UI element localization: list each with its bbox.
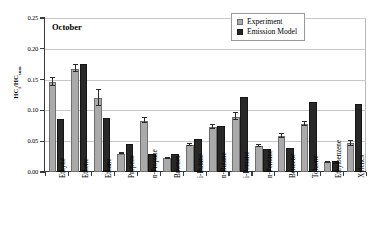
bar-group [206, 18, 229, 172]
bar-group [45, 18, 68, 172]
x-tick-label: n-Butane [220, 152, 228, 178]
chart-figure: 0.000.050.100.150.200.25 HCi/HCsum Octob… [0, 0, 374, 240]
error-bar [98, 90, 99, 106]
bar-experiment [140, 121, 148, 172]
bar-experiment [255, 146, 263, 172]
bar-experiment [186, 145, 194, 172]
bars-layer [45, 18, 366, 172]
error-bar-cap [302, 121, 307, 122]
x-tick-mark [366, 172, 367, 176]
error-bar-cap [96, 105, 101, 106]
error-bar-cap [187, 145, 192, 146]
bar-experiment [71, 69, 79, 172]
x-tick-mark [68, 172, 69, 176]
error-bar-cap [302, 125, 307, 126]
y-tick-label: 0.25 [12, 14, 38, 21]
error-bar-cap [210, 124, 215, 125]
error-bar-cap [256, 146, 261, 147]
x-tick-mark [114, 172, 115, 176]
x-tick-label: Ethane [105, 159, 113, 178]
bar-group [251, 18, 274, 172]
x-tick-mark [137, 172, 138, 176]
bar-group [183, 18, 206, 172]
x-tick-label: Propene [128, 155, 136, 178]
bar-experiment [94, 98, 102, 172]
x-tick-mark [160, 172, 161, 176]
x-tick-mark [206, 172, 207, 176]
x-tick-mark [45, 172, 46, 176]
error-bar-cap [50, 85, 55, 86]
x-tick-label: n-Propane [151, 149, 159, 178]
x-tick-label: Ethylbenzene [335, 140, 343, 178]
x-tick-mark [274, 172, 275, 176]
y-axis-title-sub-sum: sum [17, 67, 22, 76]
bar-group [297, 18, 320, 172]
error-bar-cap [142, 122, 147, 123]
bar-group [343, 18, 366, 172]
error-bar-cap [187, 143, 192, 144]
error-bar-cap [279, 137, 284, 138]
x-tick-label: Toluene [312, 156, 320, 178]
y-tick-label: 0.05 [12, 137, 38, 144]
bar-experiment [301, 124, 309, 172]
x-tick-mark [343, 172, 344, 176]
x-tick-mark [320, 172, 321, 176]
x-tick-label: i-Pentane [243, 152, 251, 178]
error-bar-cap [233, 112, 238, 113]
error-bar-cap [256, 144, 261, 145]
bar-group [91, 18, 114, 172]
error-bar-cap [210, 128, 215, 129]
error-bar-cap [348, 145, 353, 146]
bar-group [68, 18, 91, 172]
bar-experiment [324, 162, 332, 172]
error-bar-cap [279, 133, 284, 134]
error-bar-cap [325, 162, 330, 163]
bar-experiment [232, 117, 240, 172]
bar-emission-model [80, 64, 88, 172]
bar-group [160, 18, 183, 172]
bar-group [228, 18, 251, 172]
error-bar-cap [233, 119, 238, 120]
bar-group [114, 18, 137, 172]
x-tick-label: Benzene [289, 154, 297, 178]
error-bar-cap [50, 77, 55, 78]
x-tick-label: Xylenes [358, 155, 366, 178]
x-tick-mark [251, 172, 252, 176]
x-tick-mark [91, 172, 92, 176]
x-tick-mark [297, 172, 298, 176]
y-axis-title-main: HC [12, 89, 19, 99]
error-bar-cap [142, 117, 147, 118]
x-tick-label: Butenes [174, 156, 182, 178]
error-bar-cap [96, 89, 101, 90]
y-axis-title: HCi/HCsum [12, 45, 21, 121]
error-bar-cap [73, 71, 78, 72]
error-bar-cap [165, 158, 170, 159]
error-bar-cap [348, 140, 353, 141]
x-tick-mark [228, 172, 229, 176]
x-tick-label: Ethyne [59, 158, 67, 178]
x-tick-mark [183, 172, 184, 176]
bar-experiment [117, 154, 125, 172]
bar-experiment [347, 143, 355, 172]
bar-experiment [278, 136, 286, 172]
y-axis-title-mid: /HC [12, 75, 19, 87]
bar-experiment [163, 158, 171, 172]
y-tick-label: 0.00 [12, 168, 38, 175]
x-tick-label: Ethene [82, 159, 90, 178]
bar-experiment [209, 127, 217, 172]
x-tick-label: n-Pentane [266, 150, 274, 178]
error-bar-cap [119, 153, 124, 154]
error-bar-cap [73, 64, 78, 65]
bar-group [274, 18, 297, 172]
bar-experiment [49, 82, 57, 172]
x-tick-label: i-Butane [197, 154, 205, 178]
